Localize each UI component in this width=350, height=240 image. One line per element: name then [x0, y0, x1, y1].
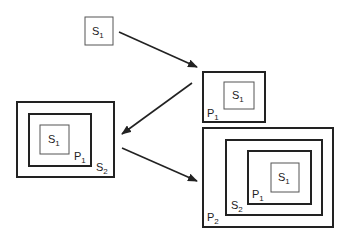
s1-label: S1: [92, 25, 104, 40]
p2-box: [203, 128, 333, 227]
nested-boxes-diagram: S1 S1 P1 S1 P1 S2 S1 P1 S2 P2: [0, 0, 350, 240]
stage1: S1: [85, 17, 113, 45]
p1-label: P1: [74, 150, 86, 165]
p2-label: P2: [207, 211, 219, 226]
arrow-stage1-to-stage2: [119, 32, 197, 67]
p1-label: P1: [252, 188, 264, 203]
s2-label: S2: [231, 199, 243, 214]
arrow-stage3-to-stage4: [122, 148, 197, 181]
s1-label: S1: [232, 89, 244, 104]
stage3: S1 P1 S2: [17, 102, 114, 177]
p1-label: P1: [207, 107, 219, 122]
arrow-stage2-to-stage3: [122, 83, 192, 134]
stage2: S1 P1: [203, 72, 265, 122]
s1-label: S1: [278, 171, 290, 186]
s1-label: S1: [48, 133, 60, 148]
stage4: S1 P1 S2 P2: [203, 128, 333, 227]
s2-label: S2: [96, 161, 108, 176]
